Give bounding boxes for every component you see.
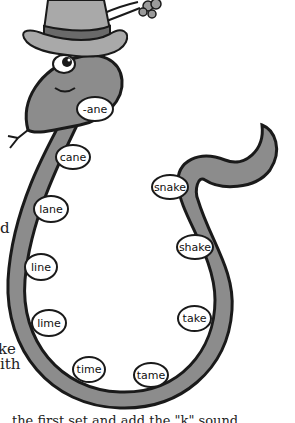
word-bubble-take: take (177, 305, 212, 332)
word-bubble-time: time (72, 356, 106, 383)
word-bubble-cane: cane (55, 144, 91, 170)
side-text-fragment: ith (0, 357, 21, 372)
word-bubble-line: line (24, 253, 58, 281)
word-bubble-snake: snake (151, 174, 189, 200)
word-bubble-lane: lane (33, 195, 69, 223)
word-bubble-tame: tame (133, 362, 169, 388)
side-text-fragment: d (0, 221, 10, 236)
word-bubble-lime: lime (31, 309, 67, 337)
word-bubble-shake: shake (176, 234, 214, 260)
flower-icon (102, 0, 161, 22)
worksheet-illustration: -ane cane lane line lime time tame take … (0, 0, 295, 423)
top-hat (23, 0, 127, 56)
bottom-text-line: the first set and add the "k" sound (12, 410, 295, 423)
word-bubble-ane: -ane (76, 96, 114, 122)
